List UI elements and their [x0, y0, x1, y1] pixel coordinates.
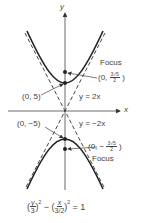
lower-focus-point — [63, 147, 67, 151]
upper-focus-label: Focus — [100, 59, 122, 67]
lower-focus-coord: (0, − 3√52 ) — [88, 141, 122, 152]
lower-vertex-label: (0, −5) — [17, 120, 40, 128]
upper-asymptote-label: y = 2x — [79, 93, 101, 101]
upper-vertex-point — [63, 81, 67, 85]
upper-focus-point — [63, 70, 67, 74]
upper-focus-coord: (0, 3√52 ) — [98, 72, 125, 83]
x-axis-label: x — [124, 106, 128, 114]
lower-asymptote-label: y = −2x — [79, 120, 105, 128]
y-axis-label: y — [60, 3, 64, 11]
lower-vertex-point — [63, 137, 67, 141]
upper-vertex-label: (0, 5) — [22, 93, 41, 101]
lower-focus-label: Focus — [92, 155, 114, 163]
hyperbola-equation: ( y3 ) 2 − ( x3/2 ) 2 = 1 — [27, 199, 85, 214]
